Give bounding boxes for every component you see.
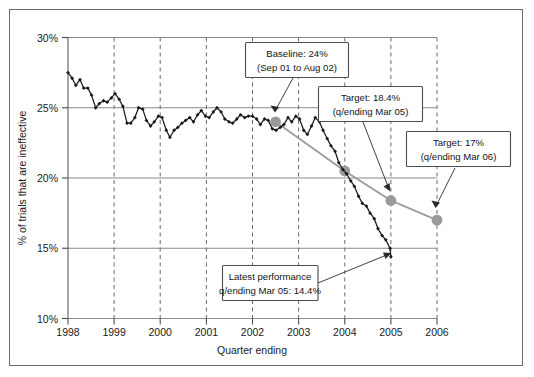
x-tick-label-1998: 1998 [56,326,80,338]
y-tick-label-30: 30% [37,32,58,44]
leader-target06 [436,168,455,206]
x-tick-label-2002: 2002 [241,326,265,338]
leader-target05 [363,122,389,189]
x-tick-label-2001: 2001 [195,326,219,338]
actual-data-point [246,114,250,118]
performance-line-chart: 30% 25% 20% 15% 10% 1998 1999 2000 2001 … [0,0,534,377]
x-tick-labels: 1998 1999 2000 2001 2002 2003 2004 2005 … [56,326,449,338]
actual-data-point [389,255,393,259]
y-tick-label-10: 10% [37,313,58,325]
callout-target06-line2: (q/ending Mar 06) [421,151,497,162]
actual-data-point [82,86,86,90]
x-tick-label-2005: 2005 [379,326,403,338]
y-axis-ticks [62,38,68,319]
x-axis-ticks [68,319,437,325]
leader-latest [318,254,389,283]
y-tick-labels: 30% 25% 20% 15% 10% [37,32,58,325]
target-data-point [432,215,443,226]
callout-baseline-line1: Baseline: 24% [266,48,328,59]
x-tick-label-2006: 2006 [425,326,449,338]
callout-latest-line1: Latest performance [229,271,312,282]
target-data-point [385,195,396,206]
x-tick-label-1999: 1999 [102,326,126,338]
chart-figure: 30% 25% 20% 15% 10% 1998 1999 2000 2001 … [0,0,534,377]
x-tick-label-2003: 2003 [287,326,311,338]
actual-data-point [125,121,129,125]
actual-data-point [160,116,164,120]
x-tick-label-2004: 2004 [333,326,357,338]
leader-target06-arrow [432,201,441,209]
callout-target06-line1: Target: 17% [433,137,485,148]
callout-baseline[interactable]: Baseline: 24% (Sep 01 to Aug 02) [246,43,349,78]
target-data-point [270,116,281,127]
x-axis-title: Quarter ending [217,344,287,356]
callout-target05-line1: Target: 18.4% [341,92,401,103]
leader-baseline [275,78,293,111]
x-tick-label-2000: 2000 [149,326,173,338]
callout-target-mar-05[interactable]: Target: 18.4% (q/ending Mar 05) [319,87,423,122]
actual-data-point [137,106,141,110]
callout-latest-line2: q/ending Mar 05: 14.4% [219,285,321,296]
y-tick-label-25: 25% [37,102,58,114]
y-tick-label-20: 20% [37,172,58,184]
callout-baseline-line2: (Sep 01 to Aug 02) [257,62,337,73]
y-tick-label-15: 15% [37,242,58,254]
callout-target05-line2: (q/ending Mar 05) [333,106,409,117]
callout-latest-performance[interactable]: Latest performance q/ending Mar 05: 14.4… [219,266,321,301]
callout-target-mar-06[interactable]: Target: 17% (q/ending Mar 06) [407,132,511,167]
y-axis-title: % of trials that are ineffective [16,111,28,246]
